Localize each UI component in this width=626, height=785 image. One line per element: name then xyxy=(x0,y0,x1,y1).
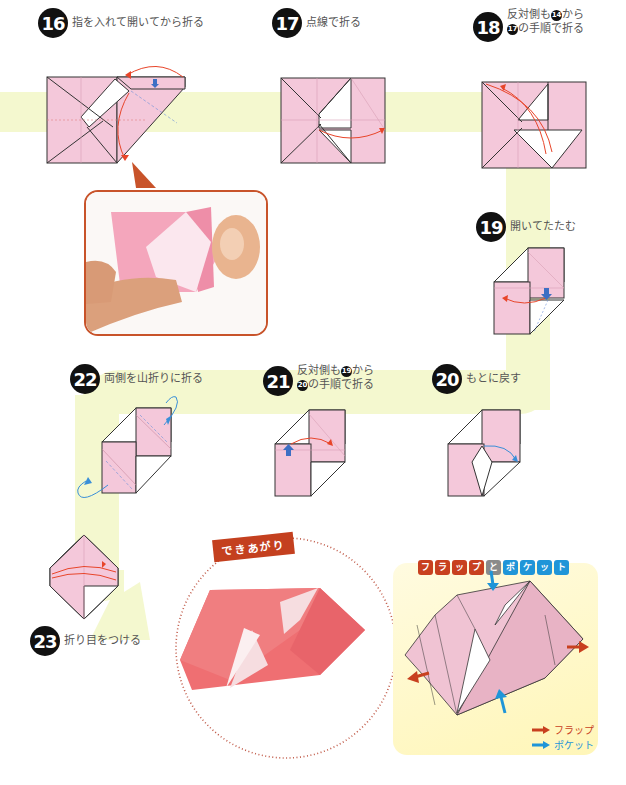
step-number: 23 xyxy=(30,626,60,656)
step-number: 21 xyxy=(263,366,293,396)
step-number: 17 xyxy=(272,8,302,38)
step-number: 19 xyxy=(476,212,506,242)
step-instruction: 反対側も19から 20の手順で折る xyxy=(297,364,374,392)
step-17-diagram xyxy=(281,78,387,164)
step-instruction: 開いてたたむ xyxy=(510,220,576,234)
step-16-diagram xyxy=(47,77,187,165)
step-17-label: 17 点線で折る xyxy=(272,8,361,38)
step-number: 22 xyxy=(70,364,100,394)
title-tile: フ xyxy=(418,560,433,575)
title-tile: ケ xyxy=(520,560,535,575)
step-16-label: 16 指を入れて開いてから折る xyxy=(38,8,204,38)
title-tile: ッ xyxy=(537,560,552,575)
step-16-photo xyxy=(84,190,268,336)
step-19-label: 19 開いてたたむ xyxy=(476,212,576,242)
step-20-diagram xyxy=(448,410,522,498)
legend-pocket: ポケット xyxy=(532,737,594,752)
step-number: 20 xyxy=(432,364,462,394)
step-22-label: 22 両側を山折りに折る xyxy=(70,364,203,394)
step-number: 18 xyxy=(473,12,503,42)
title-tile: ラ xyxy=(435,560,450,575)
step-19-diagram xyxy=(494,248,566,336)
title-tile: と xyxy=(486,560,501,575)
blue-arrow-icon xyxy=(532,741,550,749)
step-18-diagram xyxy=(482,82,588,170)
legend-flap: フラップ xyxy=(532,722,594,737)
flap-pocket-diagram xyxy=(405,585,595,725)
step-23-diagram xyxy=(48,534,120,620)
flap-pocket-title: フラップとポケット xyxy=(418,555,571,575)
step-21-diagram xyxy=(275,410,349,498)
step-instruction: 両側を山折りに折る xyxy=(104,372,203,386)
step-23-label: 23 折り目をつける xyxy=(30,626,141,656)
title-tile: ト xyxy=(554,560,569,575)
step-number: 16 xyxy=(38,8,68,38)
legend-label: ポケット xyxy=(554,737,594,752)
step-instruction: 指を入れて開いてから折る xyxy=(72,16,204,30)
step-instruction: もとに戻す xyxy=(466,372,521,386)
legend-label: フラップ xyxy=(554,722,594,737)
step-18-label: 18 反対側も14から 17の手順で折る xyxy=(473,8,584,42)
step-instruction: 反対側も14から 17の手順で折る xyxy=(507,8,584,36)
step-21-label: 21 反対側も19から 20の手順で折る xyxy=(263,364,374,396)
title-tile: ッ xyxy=(452,560,467,575)
photo-callout-pointer xyxy=(130,160,160,190)
title-tile: プ xyxy=(469,560,484,575)
step-instruction: 点線で折る xyxy=(306,16,361,30)
step-instruction: 折り目をつける xyxy=(64,634,141,648)
red-arrow-icon xyxy=(532,726,550,734)
step-22-diagram xyxy=(86,405,186,505)
step-20-label: 20 もとに戻す xyxy=(432,364,521,394)
title-tile: ポ xyxy=(503,560,518,575)
finished-model-photo xyxy=(180,590,370,700)
